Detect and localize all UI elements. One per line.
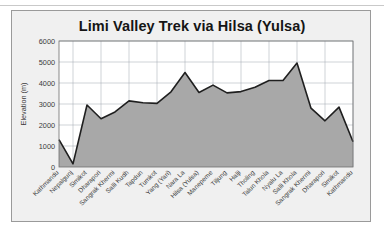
y-tick-label: 2000 — [39, 121, 55, 130]
y-tick-label: 3000 — [39, 100, 55, 109]
elevation-profile-chart: 0100020003000400050006000Elevation (m)Ka… — [12, 11, 372, 223]
chart-card: Limi Valley Trek via Hilsa (Yulsa) 01000… — [11, 10, 371, 222]
y-tick-label: 1000 — [39, 142, 55, 151]
y-tick-label: 5000 — [39, 58, 55, 67]
y-tick-label: 4000 — [39, 79, 55, 88]
x-tick-label: Tiljung — [209, 168, 228, 187]
y-tick-label: 6000 — [39, 37, 55, 46]
page-top-divider — [0, 0, 384, 6]
y-axis-title: Elevation (m) — [19, 83, 28, 126]
